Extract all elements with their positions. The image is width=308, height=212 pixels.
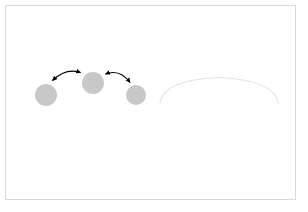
node-circle-middle[interactable] [82,72,104,94]
node-group [35,72,146,106]
figure-canvas [0,0,308,212]
faint-arc [160,78,279,104]
faint-arc-group [160,78,279,104]
connector-middle-right[interactable] [106,72,131,82]
connector-left-middle[interactable] [53,71,81,80]
diagram-graphic [0,0,308,212]
node-circle-right[interactable] [126,85,146,105]
node-circle-left[interactable] [35,84,57,106]
